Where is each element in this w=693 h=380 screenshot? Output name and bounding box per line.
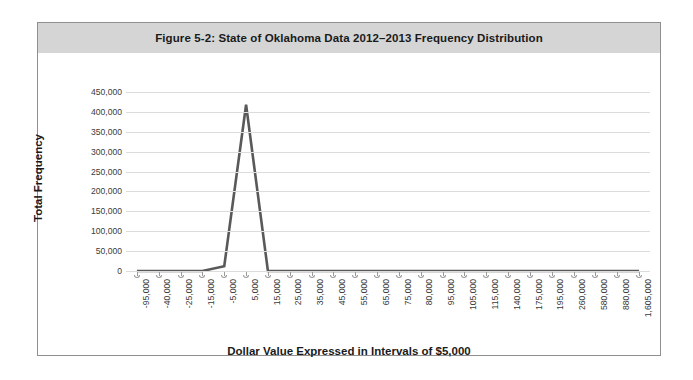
x-axis-tick-label: 5,000: [250, 279, 260, 301]
x-axis-tick-label: 25,000: [293, 279, 303, 305]
x-axis-tick-label: 105,000: [468, 279, 478, 310]
y-axis-tick-label: 50,000: [64, 247, 122, 256]
x-axis-tick-cap: [134, 275, 140, 278]
x-axis-tick-cap: [636, 275, 642, 278]
frequency-line-series: [126, 92, 650, 271]
x-axis-tick-label: -40,000: [162, 279, 172, 308]
x-axis-tick-label: 175,000: [534, 279, 544, 310]
x-axis-tick-cap: [592, 275, 598, 278]
gridline: [126, 172, 650, 173]
x-axis-tick-labels: -95,000-40,000-25,000-15,000-5,0005,0001…: [126, 279, 650, 341]
x-axis-tick-label: 75,000: [403, 279, 413, 305]
figure-title-band: Figure 5-2: State of Oklahoma Data 2012–…: [38, 23, 660, 53]
y-axis-tick-label: 400,000: [64, 107, 122, 116]
x-axis-tick-label: 580,000: [599, 279, 609, 310]
x-axis-tick-label: 65,000: [381, 279, 391, 305]
x-axis-tick-label: 15,000: [272, 279, 282, 305]
gridline: [126, 92, 650, 93]
x-axis-tick-cap: [156, 275, 162, 278]
y-axis-tick-label: 450,000: [64, 88, 122, 97]
x-axis-tick-label: 35,000: [315, 279, 325, 305]
x-axis-tick-label: 55,000: [359, 279, 369, 305]
x-axis-tick-cap: [461, 275, 467, 278]
x-axis-tick-label: -5,000: [228, 279, 238, 303]
x-axis-tick-cap: [505, 275, 511, 278]
x-axis-tick-label: 140,000: [512, 279, 522, 310]
x-axis-tick-cap: [440, 275, 446, 278]
x-axis-tick-cap: [396, 275, 402, 278]
y-axis-tick-label: 300,000: [64, 147, 122, 156]
x-axis-tick-cap: [178, 275, 184, 278]
x-axis-tick-cap: [287, 275, 293, 278]
x-axis-tick-cap: [330, 275, 336, 278]
x-axis-tick-label: 880,000: [621, 279, 631, 310]
x-axis-tick-label: -95,000: [141, 279, 151, 308]
x-axis-tick-cap: [483, 275, 489, 278]
y-axis-tick-labels: 450,000400,000350,000300,000250,000200,0…: [64, 92, 122, 271]
y-axis-tick-label: 150,000: [64, 207, 122, 216]
gridline: [126, 211, 650, 212]
plot-area: [126, 92, 650, 271]
x-axis-tick-label: 1,605,000: [643, 279, 653, 317]
y-axis-title: Total Frequency: [32, 108, 50, 248]
gridline: [126, 112, 650, 113]
x-axis-tick-cap: [199, 275, 205, 278]
x-axis-tick-cap: [527, 275, 533, 278]
x-axis-tick-label: 115,000: [490, 279, 500, 309]
x-axis-tick-cap: [614, 275, 620, 278]
y-axis-tick-label: 350,000: [64, 127, 122, 136]
x-axis-tick-label: 80,000: [424, 279, 434, 305]
x-axis-tick-cap: [374, 275, 380, 278]
gridline: [126, 231, 650, 232]
figure-title: Figure 5-2: State of Oklahoma Data 2012–…: [155, 32, 543, 44]
x-axis-tick-label: -25,000: [184, 279, 194, 308]
x-axis-tick-cap: [418, 275, 424, 278]
x-axis-tick-cap: [265, 275, 271, 278]
x-axis-tick-cap: [549, 275, 555, 278]
x-axis-tick-label: 260,000: [577, 279, 587, 310]
y-axis-tick-label: 0: [64, 267, 122, 276]
series-polyline: [137, 105, 639, 271]
y-axis-tick-label: 200,000: [64, 187, 122, 196]
x-axis-tick-cap: [309, 275, 315, 278]
x-axis-tick-cap: [352, 275, 358, 278]
x-axis-title: Dollar Value Expressed in Intervals of $…: [38, 345, 660, 357]
gridline: [126, 132, 650, 133]
gridline: [126, 152, 650, 153]
gridline: [126, 191, 650, 192]
x-axis-tick-cap: [243, 275, 249, 278]
figure-screenshot: Figure 5-2: State of Oklahoma Data 2012–…: [0, 0, 693, 380]
y-axis-tick-label: 250,000: [64, 167, 122, 176]
chart-body: Total Frequency 450,000400,000350,000300…: [38, 53, 660, 357]
x-axis-tick-marks: [126, 272, 650, 279]
x-axis-tick-cap: [221, 275, 227, 278]
x-axis-tick-label: -15,000: [206, 279, 216, 308]
x-axis-tick-cap: [571, 275, 577, 278]
gridline: [126, 251, 650, 252]
y-axis-tick-label: 100,000: [64, 227, 122, 236]
x-axis-tick-label: 195,000: [555, 279, 565, 310]
x-axis-tick-label: 95,000: [446, 279, 456, 305]
x-axis-tick-label: 45,000: [337, 279, 347, 305]
figure-frame: Figure 5-2: State of Oklahoma Data 2012–…: [37, 22, 661, 356]
